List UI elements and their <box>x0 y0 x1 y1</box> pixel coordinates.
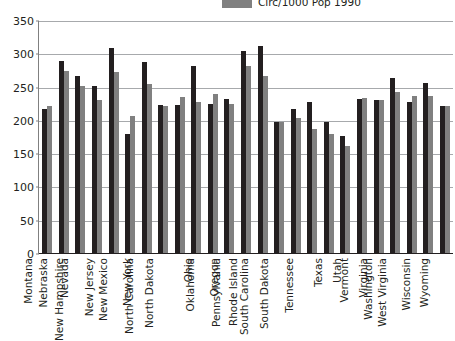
bar-group <box>271 21 288 254</box>
x-axis-labels: MontanaNebraskaNevadaNew HampshireNew Je… <box>38 256 452 331</box>
bar-group <box>387 21 404 254</box>
x-axis-tick-label: North Carolina <box>124 258 135 334</box>
x-axis-tick-label: New Jersey <box>83 258 94 316</box>
x-axis-label-cell: North Carolina <box>154 256 171 331</box>
bar-group <box>89 21 106 254</box>
bar-group <box>370 21 387 254</box>
bar <box>180 97 185 254</box>
x-axis-tick-label: Rhode Island <box>228 258 239 326</box>
bar-group <box>304 21 321 254</box>
bar <box>395 92 400 254</box>
bar-group <box>155 21 172 254</box>
bar-group <box>172 21 189 254</box>
bar <box>445 106 450 254</box>
bar <box>196 102 201 254</box>
x-axis-tick-label: Pennsylvania <box>211 258 222 327</box>
bar <box>163 106 168 254</box>
x-axis-tick-label: South Dakota <box>259 258 270 329</box>
bar-group <box>105 21 122 254</box>
x-axis-tick-label: Wyoming <box>419 258 430 307</box>
bar-group <box>254 21 271 254</box>
bar-group <box>403 21 420 254</box>
x-axis-label-cell: Wyoming <box>436 256 453 331</box>
bar-group <box>337 21 354 254</box>
x-axis-tick-label: South Carolina <box>240 258 251 335</box>
bar <box>279 122 284 254</box>
x-axis-tick-label: Texas <box>313 258 324 287</box>
bar <box>312 129 317 254</box>
bar-group <box>205 21 222 254</box>
bar <box>329 134 334 254</box>
bar <box>47 106 52 254</box>
bar <box>345 146 350 255</box>
bar <box>114 72 119 254</box>
chart-legend: Circ/1000 Pop 1990 <box>222 0 361 9</box>
bar-group <box>221 21 238 254</box>
x-axis-tick-label: Vermont <box>339 258 350 302</box>
x-axis-tick-label: North Dakota <box>144 258 155 328</box>
bar-group <box>321 21 338 254</box>
bar <box>263 76 268 254</box>
bar-group <box>72 21 89 254</box>
bar-group <box>354 21 371 254</box>
bar <box>130 116 135 254</box>
plot-area: 050100150200250300350 <box>38 21 453 254</box>
x-axis-tick-label: Montana <box>23 258 34 304</box>
bar-series-container <box>39 21 453 254</box>
bar <box>379 100 384 254</box>
bar-group <box>437 21 454 254</box>
bar-group <box>238 21 255 254</box>
legend-label: Circ/1000 Pop 1990 <box>258 0 361 8</box>
bar <box>428 96 433 254</box>
x-axis-tick-label: New Mexico <box>98 258 109 321</box>
bar-group <box>39 21 56 254</box>
x-axis-tick-label: Washington <box>363 258 374 320</box>
bar <box>412 96 417 254</box>
bar <box>97 100 102 254</box>
bar-group <box>420 21 437 254</box>
bar-group <box>188 21 205 254</box>
bar <box>213 94 218 254</box>
bar-group <box>138 21 155 254</box>
bar <box>362 98 367 254</box>
bar-group <box>287 21 304 254</box>
bar <box>229 104 234 254</box>
bar-group <box>56 21 73 254</box>
x-axis-tick-label: Oklahoma <box>185 258 196 311</box>
x-axis-line <box>39 253 453 254</box>
x-axis-tick-label: Wisconsin <box>401 258 412 310</box>
x-axis-tick-label: Tennessee <box>284 258 295 313</box>
bar <box>80 86 85 254</box>
bar-group <box>122 21 139 254</box>
bar <box>64 71 69 254</box>
bar <box>246 66 251 254</box>
legend-swatch-icon <box>222 0 252 8</box>
x-axis-tick-label: Nebraska <box>38 258 49 308</box>
x-axis-tick-label: West Virginia <box>376 258 387 327</box>
bar <box>147 84 152 254</box>
bar <box>296 118 301 254</box>
x-axis-tick-label: New Hampshire <box>54 258 65 341</box>
